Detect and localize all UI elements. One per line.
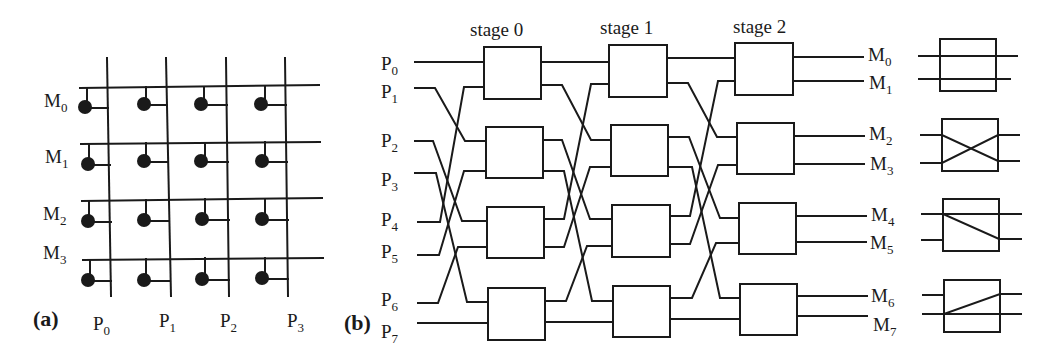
panel-a-label: (a) xyxy=(33,306,59,331)
crosspoint-r3c3 xyxy=(255,258,288,285)
switch-s0-0 xyxy=(484,47,541,99)
input-label-6: P6 xyxy=(381,289,399,314)
switch-s2-0 xyxy=(735,43,793,95)
shuffle-wires-stage-2 xyxy=(667,58,740,319)
figure-canvas: M0 M1 M2 M3 P0 P1 P2 P3 (a) stage 0 stag… xyxy=(0,0,1053,357)
switch-s1-2 xyxy=(612,205,670,257)
output-label-7: M7 xyxy=(873,314,897,339)
crosspoint-r0c1 xyxy=(137,87,167,111)
memory-line-0 xyxy=(80,85,319,88)
stage-label-2: stage 2 xyxy=(733,16,786,37)
input-label-3: P3 xyxy=(381,169,398,194)
switch-s1-0 xyxy=(609,45,667,97)
processor-label-3: P3 xyxy=(287,310,304,335)
switch-state-lower-broadcast xyxy=(923,280,1021,332)
input-label-5: P5 xyxy=(381,241,398,266)
input-label-4: P4 xyxy=(381,209,399,234)
crosspoint-r0c0 xyxy=(78,88,108,114)
processor-label-0: P0 xyxy=(93,313,110,338)
crosspoint-r0c2 xyxy=(194,87,227,111)
crosspoint-r1c2 xyxy=(194,143,228,168)
omega-network-diagram: stage 0 stage 1 stage 2 P0 P1 P2 P3 P4 P… xyxy=(344,16,897,346)
memory-label-2: M2 xyxy=(43,203,66,228)
stage-label-0: stage 0 xyxy=(470,19,523,40)
crosspoint-r2c0 xyxy=(81,201,111,228)
crosspoint-r2c1 xyxy=(137,200,169,227)
crosspoint-r3c1 xyxy=(137,259,170,287)
processor-line-3 xyxy=(285,58,288,296)
crosspoint-r1c0 xyxy=(81,144,110,171)
memory-label-3: M3 xyxy=(43,242,66,267)
switch-state-crossed xyxy=(921,119,1019,171)
shuffle-wires-stage-1 xyxy=(541,62,613,322)
processor-label-2: P2 xyxy=(220,310,237,335)
shuffle-wires-stage-0 xyxy=(415,62,488,323)
crosspoint-r3c0 xyxy=(81,260,111,287)
crosspoint-r2c2 xyxy=(195,199,229,226)
switch-s1-1 xyxy=(611,125,668,176)
memory-line-1 xyxy=(81,142,320,144)
crossbar-diagram: M0 M1 M2 M3 P0 P1 P2 P3 (a) xyxy=(33,58,323,338)
output-label-5: M5 xyxy=(870,232,893,257)
switch-state-straight xyxy=(919,39,1017,91)
memory-label-0: M0 xyxy=(44,90,67,115)
switch-s1-3 xyxy=(613,286,670,337)
output-label-3: M3 xyxy=(870,153,893,178)
crosspoint-r0c3 xyxy=(254,86,286,111)
switch-s2-3 xyxy=(740,284,797,335)
output-label-0: M0 xyxy=(868,44,891,69)
input-label-0: P0 xyxy=(381,53,398,78)
switch-s0-3 xyxy=(488,288,545,340)
processor-line-2 xyxy=(226,58,229,296)
memory-label-1: M1 xyxy=(45,146,68,171)
input-label-7: P7 xyxy=(381,321,399,346)
switch-s0-2 xyxy=(487,207,544,258)
switch-s2-1 xyxy=(737,123,794,174)
crosspoint-r1c1 xyxy=(137,143,168,168)
input-label-2: P2 xyxy=(381,130,398,155)
crosspoint-r1c3 xyxy=(255,142,287,168)
output-label-1: M1 xyxy=(869,72,892,97)
panel-b-label: (b) xyxy=(344,310,371,335)
crosspoint-r3c2 xyxy=(195,258,229,286)
processor-label-1: P1 xyxy=(159,310,176,335)
switch-state-legend xyxy=(919,39,1021,332)
output-label-6: M6 xyxy=(871,285,895,310)
output-wires xyxy=(793,57,867,316)
switch-state-upper-broadcast xyxy=(922,199,1021,251)
stage-label-1: stage 1 xyxy=(600,17,653,38)
switch-s0-1 xyxy=(486,127,543,178)
input-label-1: P1 xyxy=(381,81,398,106)
output-label-2: M2 xyxy=(869,123,892,148)
switch-s2-2 xyxy=(739,203,796,254)
output-label-4: M4 xyxy=(871,204,895,229)
crosspoint-r2c3 xyxy=(255,199,288,226)
